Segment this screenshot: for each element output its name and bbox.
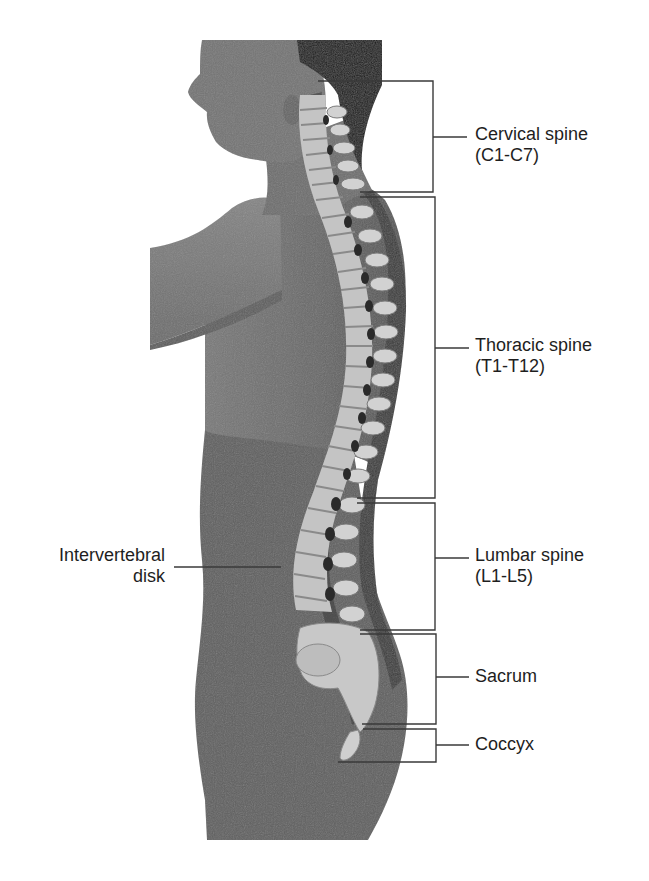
label-lumbar-range: (L1-L5) xyxy=(475,566,584,587)
ilium xyxy=(296,644,340,676)
label-disk-line2: disk xyxy=(30,566,165,587)
label-sacrum-title: Sacrum xyxy=(475,666,537,687)
label-cervical-spine: Cervical spine (C1-C7) xyxy=(475,124,588,166)
label-thoracic-title: Thoracic spine xyxy=(475,335,592,356)
ear xyxy=(283,95,301,125)
label-coccyx-title: Coccyx xyxy=(475,734,534,755)
label-cervical-range: (C1-C7) xyxy=(475,145,588,166)
label-lumbar-title: Lumbar spine xyxy=(475,545,584,566)
label-thoracic-range: (T1-T12) xyxy=(475,356,592,377)
label-thoracic-spine: Thoracic spine (T1-T12) xyxy=(475,335,592,377)
label-lumbar-spine: Lumbar spine (L1-L5) xyxy=(475,545,584,587)
label-sacrum: Sacrum xyxy=(475,666,537,687)
label-intervertebral-disk: Intervertebral disk xyxy=(30,545,165,587)
label-coccyx: Coccyx xyxy=(475,734,534,755)
label-disk-line1: Intervertebral xyxy=(30,545,165,566)
label-cervical-title: Cervical spine xyxy=(475,124,588,145)
